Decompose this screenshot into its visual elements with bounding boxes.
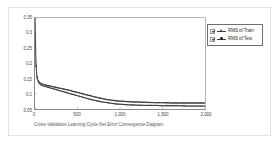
legend-item-test[interactable]: RMS of Test (210, 35, 260, 43)
series-line-test (35, 18, 205, 103)
y-tick-label: 0.25 (10, 46, 32, 51)
series-line-train (35, 18, 205, 106)
chart-legend[interactable]: RMS of Train RMS of Test (207, 24, 263, 46)
legend-marker-train (217, 29, 226, 34)
y-tick-label: 0.35 (10, 15, 32, 20)
chart-caption: Cross-Validation Learning Cycle Net Erro… (34, 122, 214, 128)
y-tick-label: 0.05 (10, 108, 32, 113)
plot-area (34, 17, 206, 110)
x-tick-label: 1,500 (158, 112, 169, 118)
y-tick-label: 0.2 (10, 61, 32, 66)
chart-figure: 0.350.30.250.20.150.10.05 05001,0001,500… (0, 0, 280, 144)
x-tick-label: 500 (73, 112, 80, 118)
legend-marker-test (217, 37, 226, 42)
legend-item-train[interactable]: RMS of Train (210, 27, 260, 35)
y-tick-label: 0.1 (10, 92, 32, 97)
plot-svg (35, 18, 205, 109)
series-markers-train (35, 18, 205, 107)
x-axis-tick-labels: 05001,0001,5002,000 (34, 112, 206, 119)
x-tick-label: 2,000 (201, 112, 212, 118)
y-tick-label: 0.3 (10, 30, 32, 35)
legend-label-train: RMS of Train (228, 28, 254, 34)
legend-checkbox-test[interactable] (210, 37, 215, 42)
legend-label-test: RMS of Test (228, 36, 252, 42)
y-axis-tick-labels: 0.350.30.250.20.150.10.05 (8, 17, 32, 110)
y-tick-label: 0.15 (10, 77, 32, 82)
x-tick-label: 0 (33, 112, 35, 118)
legend-checkbox-train[interactable] (210, 29, 215, 34)
x-tick-label: 1,000 (115, 112, 126, 118)
